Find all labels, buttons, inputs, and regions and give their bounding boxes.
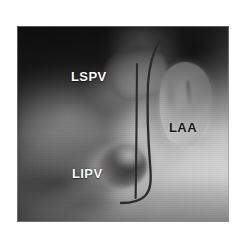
panel-border [17, 26, 229, 222]
medical-image-panel: LSPV LIPV LAA [17, 26, 229, 222]
figure-root: LSPV LIPV LAA [0, 0, 246, 242]
